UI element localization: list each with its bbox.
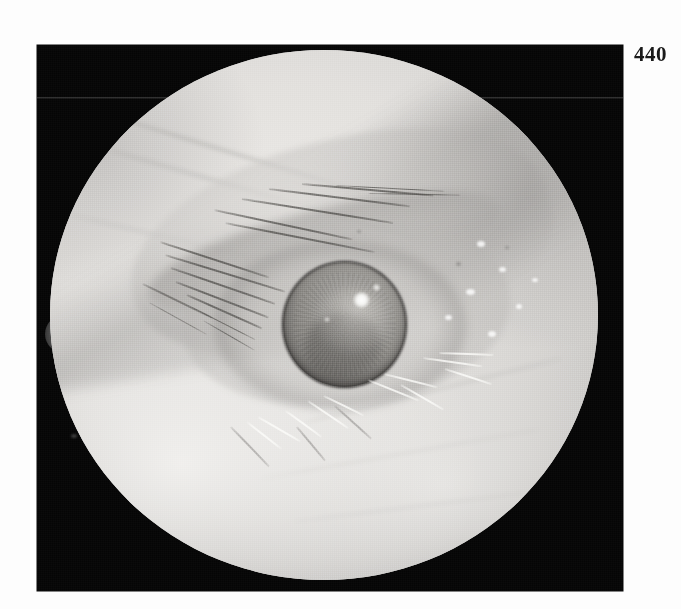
circular-eye-field	[50, 50, 598, 580]
skin-dark-speck	[456, 262, 461, 266]
skin-dark-speck	[505, 246, 509, 249]
figure-plate	[37, 45, 623, 591]
page-number: 440	[634, 44, 667, 65]
page-sheet: 440	[0, 0, 681, 609]
skin-light-speck	[445, 315, 452, 320]
eye-field-container	[37, 45, 623, 591]
skin-light-speck	[466, 289, 475, 295]
dark-field-artifact	[71, 434, 77, 438]
